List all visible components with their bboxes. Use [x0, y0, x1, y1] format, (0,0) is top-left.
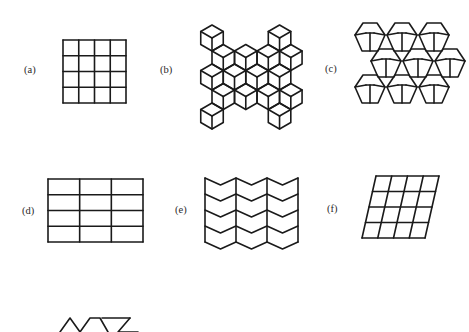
- tilings-figure: [0, 0, 469, 332]
- panel-c-cairo-tiling: [355, 23, 465, 103]
- panel-f-parallelogram-grid: [362, 176, 439, 238]
- panel-d-rect-grid: [48, 179, 143, 242]
- panel-g-partial-tiling: [60, 318, 138, 332]
- panel-b-rhombus-tiling: [201, 25, 302, 129]
- panel-a-square-grid: [63, 40, 126, 103]
- panel-e-chevron-tiling: [205, 178, 298, 249]
